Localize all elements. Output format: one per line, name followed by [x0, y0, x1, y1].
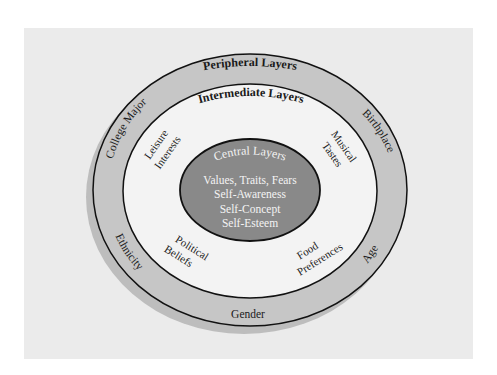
central-item-values-traits-fears: Values, Traits, Fears: [203, 174, 297, 187]
layers-diagram: Peripheral Layers Intermediate Layers Co…: [0, 0, 497, 375]
central-item-self-awareness: Self-Awareness: [214, 188, 286, 200]
diagram-stage: Peripheral Layers Intermediate Layers Co…: [0, 0, 497, 375]
central-item-self-concept: Self-Concept: [220, 203, 281, 216]
peripheral-item-gender: Gender: [231, 308, 265, 320]
central-item-self-esteem: Self-Esteem: [222, 217, 278, 229]
